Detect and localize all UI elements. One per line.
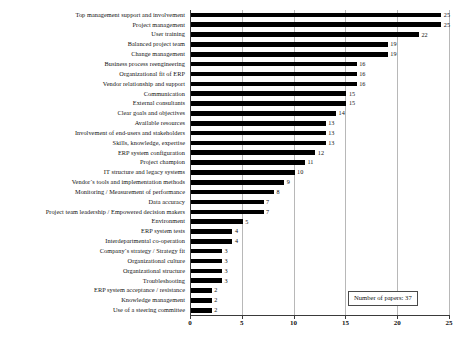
bar: [191, 52, 388, 57]
category-label: Organizational culture: [0, 256, 188, 266]
bar-value-label: 11: [307, 159, 313, 165]
category-label: Change management: [0, 49, 188, 59]
bar-value-label: 25: [444, 22, 450, 28]
category-label: Vendor´s tools and implementation method…: [0, 177, 188, 187]
bar-value-label: 4: [235, 228, 238, 234]
bar-row: 12: [191, 148, 450, 158]
bar: [191, 239, 232, 244]
bar: [191, 249, 222, 254]
bar: [191, 42, 388, 47]
bar-row: 3: [191, 256, 450, 266]
category-label: Company´s strategy / Strategy fit: [0, 246, 188, 256]
bar-value-label: 19: [390, 51, 396, 57]
category-label: Organizational structure: [0, 266, 188, 276]
bar-row: 10: [191, 168, 450, 178]
bar: [191, 62, 357, 67]
bar-value-label: 19: [390, 41, 396, 47]
bar-value-label: 12: [318, 150, 324, 156]
category-label: Project team leadership / Empowered deci…: [0, 207, 188, 217]
category-label: Monitoring / Measurement of performance: [0, 187, 188, 197]
category-label: Project management: [0, 20, 188, 30]
bar-row: 4: [191, 227, 450, 237]
category-label: Data accuracy: [0, 197, 188, 207]
bar-row: 16: [191, 79, 450, 89]
bar-value-label: 13: [328, 130, 334, 136]
category-label: Project champion: [0, 158, 188, 168]
category-label: Use of a steering committee: [0, 305, 188, 315]
bar: [191, 111, 336, 116]
bar: [191, 190, 274, 195]
category-label: Involvement of end-users and stakeholder…: [0, 128, 188, 138]
bar: [191, 82, 357, 87]
bar-row: 5: [191, 217, 450, 227]
bar-value-label: 2: [214, 307, 217, 313]
x-axis: 0510152025: [190, 316, 449, 332]
bar-value-label: 25: [444, 12, 450, 18]
bar-value-label: 16: [359, 71, 365, 77]
bar-row: 14: [191, 108, 450, 118]
category-label: ERP system configuration: [0, 148, 188, 158]
bar: [191, 101, 346, 106]
bar-value-label: 13: [328, 140, 334, 146]
bar-row: 16: [191, 59, 450, 69]
bar-value-label: 2: [214, 287, 217, 293]
bar-value-label: 8: [276, 189, 279, 195]
category-label: Top management support and involvement: [0, 10, 188, 20]
bar-row: 4: [191, 236, 450, 246]
bar-row: 3: [191, 276, 450, 286]
category-label: Communication: [0, 89, 188, 99]
bar-row: 2: [191, 305, 450, 315]
bar: [191, 22, 441, 27]
bar: [191, 210, 264, 215]
x-axis-tick-label: 25: [446, 320, 453, 327]
bar-row: 13: [191, 118, 450, 128]
bar: [191, 170, 295, 175]
category-label: Organizational fit of ERP: [0, 69, 188, 79]
bar-row: 22: [191, 30, 450, 40]
bar: [191, 131, 326, 136]
category-label: Clear goals and objectives: [0, 108, 188, 118]
bar: [191, 229, 232, 234]
bar: [191, 288, 212, 293]
bar-row: 11: [191, 158, 450, 168]
bar-value-label: 15: [349, 100, 355, 106]
bar: [191, 298, 212, 303]
bar: [191, 150, 315, 155]
bar-row: 15: [191, 89, 450, 99]
bar-value-label: 22: [421, 32, 427, 38]
bar: [191, 13, 441, 18]
bar: [191, 200, 264, 205]
category-label-column: Top management support and involvementPr…: [0, 10, 188, 315]
bar-value-label: 3: [225, 248, 228, 254]
bar-row: 19: [191, 40, 450, 50]
category-label: Skills, knowledge, expertise: [0, 138, 188, 148]
category-label: Knowledge management: [0, 295, 188, 305]
bar: [191, 72, 357, 77]
category-label: Environment: [0, 217, 188, 227]
bar-row: 9: [191, 177, 450, 187]
bar-value-label: 16: [359, 81, 365, 87]
plot-area: 2525221919161616151514131313121110987754…: [190, 10, 450, 316]
bar-value-label: 4: [235, 238, 238, 244]
bar: [191, 32, 419, 37]
bar-value-label: 7: [266, 209, 269, 215]
bar-value-label: 13: [328, 120, 334, 126]
x-axis-tick-label: 15: [342, 320, 349, 327]
category-label: Business process reengineering: [0, 59, 188, 69]
bar-value-label: 2: [214, 297, 217, 303]
bar: [191, 160, 305, 165]
bar-series: 2525221919161616151514131313121110987754…: [191, 10, 450, 315]
bar-row: 15: [191, 99, 450, 109]
category-label: Troubleshooting: [0, 276, 188, 286]
x-axis-tick-label: 0: [188, 320, 192, 327]
x-axis-tick-label: 20: [394, 320, 401, 327]
bar-value-label: 16: [359, 61, 365, 67]
bar-value-label: 15: [349, 91, 355, 97]
bar-value-label: 3: [225, 278, 228, 284]
x-axis-tick-label: 5: [240, 320, 244, 327]
bar: [191, 269, 222, 274]
bar: [191, 308, 212, 313]
bar: [191, 121, 326, 126]
bar-row: 3: [191, 266, 450, 276]
bar-value-label: 3: [225, 268, 228, 274]
